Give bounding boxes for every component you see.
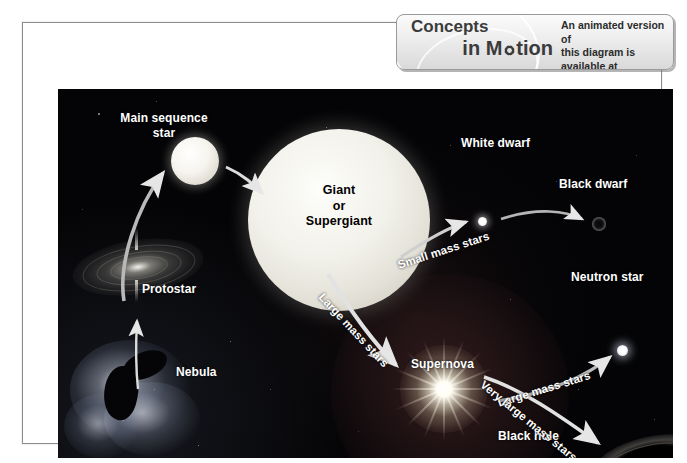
logo-line-1: Concepts bbox=[407, 18, 555, 35]
label-neutron-star: Neutron star bbox=[571, 270, 644, 285]
label-black-dwarf: Black dwarf bbox=[559, 177, 627, 192]
concepts-in-motion-banner[interactable]: Concepts in M tion bbox=[396, 14, 674, 70]
logo-line-2: in M tion bbox=[407, 38, 555, 58]
star-life-cycle-image: Giant or Supergiant bbox=[58, 89, 673, 458]
label-white-dwarf: White dwarf bbox=[461, 136, 530, 151]
concepts-in-motion-logo: Concepts in M tion bbox=[407, 18, 555, 58]
gear-icon bbox=[503, 44, 516, 57]
arrow-nebula-to-protostar bbox=[136, 321, 138, 389]
label-supernova: Supernova bbox=[411, 357, 474, 372]
callout-line-2: this diagram is available at bbox=[561, 46, 667, 70]
arrow-white-dwarf-to-black-dwarf bbox=[501, 211, 582, 219]
label-protostar: Protostar bbox=[142, 282, 196, 297]
screenshot-root: Giant or Supergiant bbox=[0, 0, 687, 463]
animated-version-callout: An animated version of this diagram is a… bbox=[561, 19, 667, 65]
diagram-frame: Giant or Supergiant bbox=[22, 22, 662, 444]
label-main-sequence-star: Main sequence star bbox=[94, 111, 234, 140]
callout-line-1: An animated version of bbox=[561, 19, 667, 46]
arrow-main-sequence-to-giant bbox=[226, 167, 262, 193]
logo-line-2-post: tion bbox=[516, 37, 553, 59]
logo-line-2-pre: in M bbox=[462, 37, 502, 59]
label-nebula: Nebula bbox=[176, 365, 217, 380]
